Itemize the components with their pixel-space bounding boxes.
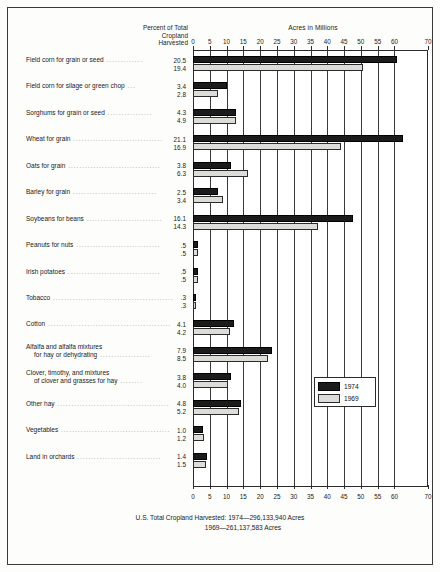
- percent-value-1974: 7.9: [160, 347, 186, 354]
- x-tick-label: 0: [191, 38, 195, 45]
- category-label-line: Peanuts for nuts .......................…: [26, 241, 142, 249]
- legend-swatch-1969: [318, 394, 340, 403]
- leader-dots: .................................: [65, 268, 160, 275]
- x-tick-mark: [428, 46, 429, 50]
- x-tick-mark: [311, 485, 312, 489]
- bar-1969: [193, 64, 363, 71]
- percent-value-1974: 20.5: [160, 57, 186, 64]
- x-tick-mark: [243, 485, 244, 489]
- category-label: Tobacco ................................…: [26, 294, 142, 302]
- percent-value-1969: 5.2: [160, 408, 186, 415]
- leader-dots: ................: [105, 109, 153, 116]
- x-axis-title: Acres in Millions: [193, 24, 433, 31]
- percent-column-header: Percent of Total Cropland Harvested: [100, 24, 188, 47]
- percent-value-1969: 4.9: [160, 117, 186, 124]
- bar-1969: [193, 276, 198, 283]
- bar-1969: [193, 381, 228, 388]
- x-tick-label: 50: [357, 493, 364, 500]
- percent-value-1969: 19.4: [160, 65, 186, 72]
- category-label-line: Clover, timothy, and mixtures: [26, 369, 142, 377]
- x-tick-label: 25: [273, 38, 280, 45]
- leader-dots: ..............................: [70, 188, 157, 195]
- percent-value-1974: .5: [160, 268, 186, 275]
- x-tick-label: 30: [290, 493, 297, 500]
- bar-1969: [193, 461, 206, 468]
- bar-1974: [193, 294, 196, 301]
- gridline: [361, 50, 362, 487]
- leader-dots: ...: [125, 82, 136, 89]
- percent-value-1974: 3.8: [160, 374, 186, 381]
- category-label: Irish potatoes .........................…: [26, 268, 142, 276]
- chart-footer: U.S. Total Cropland Harvested: 1974—296,…: [0, 513, 440, 532]
- bar-1969: [193, 434, 204, 441]
- bar-1974: [193, 373, 231, 380]
- leader-dots: ........................................: [55, 400, 170, 407]
- leader-dots: .................................: [65, 162, 160, 169]
- legend-swatch-1974: [318, 382, 340, 391]
- x-tick-label: 50: [357, 38, 364, 45]
- category-label-line: Alfalfa and alfalfa mixtures: [26, 343, 142, 351]
- x-tick-label: 20: [257, 38, 264, 45]
- legend-item-1974: 1974: [318, 381, 359, 392]
- bar-1974: [193, 162, 231, 169]
- x-tick-mark: [344, 485, 345, 489]
- x-tick-label: 5: [208, 493, 212, 500]
- gridline: [260, 50, 261, 487]
- x-tick-label: 35: [307, 493, 314, 500]
- percent-header-line-2: Cropland: [100, 32, 188, 40]
- bar-1974: [193, 82, 227, 89]
- percent-value-1969: 4.2: [160, 329, 186, 336]
- x-tick-mark: [378, 485, 379, 489]
- category-label-line: Barley for grain .......................…: [26, 188, 142, 196]
- percent-value-1969: 16.9: [160, 144, 186, 151]
- bar-1969: [193, 408, 239, 415]
- percent-value-1974: 3.8: [160, 162, 186, 169]
- category-label: Field corn for grain or seed ...........…: [26, 56, 142, 64]
- percent-value-1969: 14.3: [160, 223, 186, 230]
- percent-value-1969: 1.5: [160, 461, 186, 468]
- category-label-line: Cotton .................................…: [26, 320, 142, 328]
- legend-label-1974: 1974: [344, 383, 359, 390]
- footer-line-2: 1969—261,137,583 Acres: [0, 523, 440, 533]
- category-label-line: Other hay ..............................…: [26, 400, 142, 408]
- category-label: Other hay ..............................…: [26, 400, 142, 408]
- x-tick-label: 20: [257, 493, 264, 500]
- bar-1969: [193, 170, 248, 177]
- percent-value-1974: 4.3: [160, 109, 186, 116]
- bar-1974: [193, 109, 236, 116]
- category-label: Peanuts for nuts .......................…: [26, 241, 142, 249]
- gridline: [327, 50, 328, 487]
- gridline: [243, 50, 244, 487]
- gridline: [394, 50, 395, 487]
- category-label: Soybeans for beans .....................…: [26, 215, 142, 223]
- x-tick-label: 45: [341, 38, 348, 45]
- category-label-line: Wheat for grain ........................…: [26, 135, 142, 143]
- bar-1969: [193, 328, 230, 335]
- leader-dots: .............: [104, 56, 143, 63]
- bar-1974: [193, 347, 272, 354]
- bar-1974: [193, 320, 234, 327]
- x-tick-mark: [394, 485, 395, 489]
- percent-header-line-1: Percent of Total: [100, 24, 188, 32]
- x-axis-ticks-bottom: 05101520253035404550556070: [193, 489, 428, 499]
- bar-1974: [193, 426, 203, 433]
- leader-dots: ........................................…: [45, 320, 171, 327]
- bar-1974: [193, 56, 397, 63]
- percent-value-1974: 3.4: [160, 83, 186, 90]
- x-tick-label: 55: [374, 493, 381, 500]
- x-tick-mark: [260, 485, 261, 489]
- x-tick-mark: [277, 485, 278, 489]
- x-tick-mark: [294, 485, 295, 489]
- category-label: Oats for grain .........................…: [26, 162, 142, 170]
- category-label-line: Field corn for grain or seed ...........…: [26, 56, 142, 64]
- bar-1974: [193, 268, 198, 275]
- x-tick-label: 60: [391, 38, 398, 45]
- bar-1969: [193, 143, 341, 150]
- x-tick-label: 10: [223, 493, 230, 500]
- leader-dots: ........................................…: [50, 294, 173, 301]
- category-label-line: Tobacco ................................…: [26, 294, 142, 302]
- x-axis-ticks-top: 05101520253035404550556070: [193, 38, 428, 48]
- gridline: [294, 50, 295, 487]
- x-tick-label: 15: [240, 38, 247, 45]
- x-tick-mark: [361, 485, 362, 489]
